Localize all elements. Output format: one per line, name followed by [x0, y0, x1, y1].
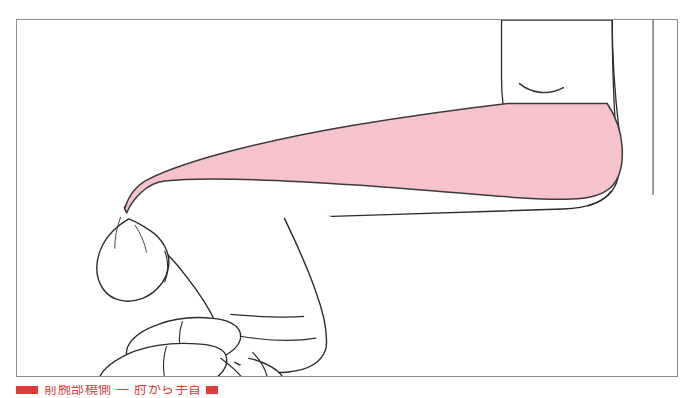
caption-marker-start	[16, 386, 38, 394]
figure-caption: 前腕部橈側 — 肘から手首	[16, 385, 678, 398]
caption-marker-end	[206, 386, 218, 394]
figure-page: 前腕部橈側 — 肘から手首	[0, 0, 696, 398]
caption-label: 前腕部橈側 — 肘から手首	[44, 385, 202, 396]
caption-text-line: 前腕部橈側 — 肘から手首	[16, 385, 218, 396]
middle-finger	[99, 343, 227, 376]
figure-frame	[16, 19, 678, 377]
arm-illustration	[17, 20, 677, 376]
